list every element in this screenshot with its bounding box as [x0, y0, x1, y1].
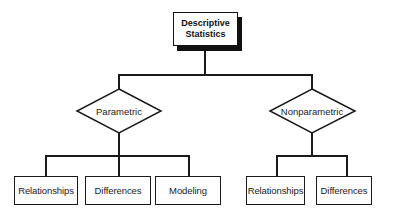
decision-node-nonparametric: Nonparametric [281, 106, 343, 117]
leaf-parametric-relationships: Relationships [14, 176, 78, 205]
leaf-nonparametric-relationships: Relationships [246, 176, 305, 205]
root-label-line2: Statistics [181, 29, 230, 40]
decision-node-parametric: Parametric [96, 106, 142, 117]
leaf-nonparametric-differences: Differences [316, 176, 372, 205]
leaf-parametric-differences: Differences [85, 176, 151, 205]
leaf-parametric-modeling: Modeling [155, 176, 221, 205]
root-node-descriptive-statistics: Descriptive Statistics [173, 12, 238, 46]
root-label-line1: Descriptive [181, 18, 230, 29]
